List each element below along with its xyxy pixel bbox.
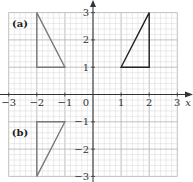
- x-tick-label: 2: [146, 97, 152, 108]
- y-tick-label: 2: [83, 34, 89, 45]
- shape-label: (a): [12, 18, 28, 29]
- y-axis-arrow-icon: [90, 0, 96, 7]
- y-tick-label: −2: [74, 144, 89, 155]
- y-tick-label: −1: [74, 116, 89, 127]
- origin-label: 0: [83, 97, 89, 108]
- y-tick-label: 3: [83, 7, 89, 18]
- x-axis-label: x: [185, 97, 191, 108]
- x-tick-label: 1: [118, 97, 124, 108]
- y-tick-label: −3: [74, 171, 89, 182]
- coordinate-plane: −3−2−1123321−1−2−30x (a)(b): [0, 0, 193, 182]
- coordinate-diagram: −3−2−1123321−1−2−30x (a)(b): [0, 0, 193, 182]
- x-tick-label: −2: [29, 97, 44, 108]
- x-tick-label: 3: [174, 97, 180, 108]
- y-tick-label: 1: [83, 62, 89, 73]
- shape-label: (b): [12, 127, 28, 138]
- x-tick-label: −3: [1, 97, 16, 108]
- x-tick-label: −1: [58, 97, 73, 108]
